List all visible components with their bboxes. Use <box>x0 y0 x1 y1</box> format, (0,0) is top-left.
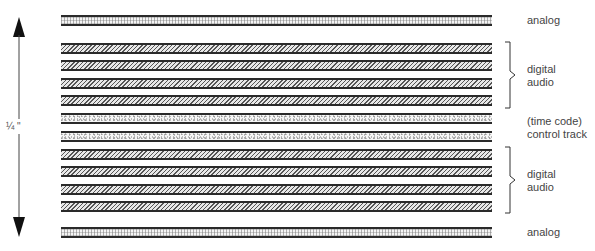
label-digital-audio-bottom: digital audio <box>527 168 556 194</box>
label-analog-top-text: analog <box>527 14 560 26</box>
track-digital-4 <box>61 95 492 106</box>
track-digital-5 <box>61 149 492 160</box>
track-digital-7 <box>61 184 492 195</box>
label-control-track: (time code) control track <box>527 115 587 141</box>
track-digital-3 <box>61 78 492 89</box>
track-analog-bottom <box>61 227 492 238</box>
label-digital-bottom-line1: digital <box>527 168 556 181</box>
track-analog-top <box>61 15 492 26</box>
tape-track-diagram: ¼ " analog digital audio (time code) con… <box>0 0 595 251</box>
brace-digital-top-icon <box>504 41 518 109</box>
track-digital-2 <box>61 60 492 71</box>
track-digital-8 <box>61 201 492 212</box>
label-control-line1: (time code) <box>527 115 587 128</box>
track-control-1 <box>61 113 492 124</box>
label-control-line2: control track <box>527 128 587 141</box>
label-analog-bottom-text: analog <box>527 226 560 238</box>
track-digital-6 <box>61 166 492 177</box>
label-digital-bottom-line2: audio <box>527 181 556 194</box>
track-control-2 <box>61 131 492 142</box>
label-digital-top-line2: audio <box>527 76 556 89</box>
tape-width-label: ¼ " <box>6 119 21 134</box>
brace-digital-bottom-icon <box>504 146 518 214</box>
label-digital-audio-top: digital audio <box>527 63 556 89</box>
label-analog-bottom: analog <box>527 226 560 239</box>
label-analog-top: analog <box>527 14 560 27</box>
label-digital-top-line1: digital <box>527 63 556 76</box>
track-digital-1 <box>61 43 492 54</box>
